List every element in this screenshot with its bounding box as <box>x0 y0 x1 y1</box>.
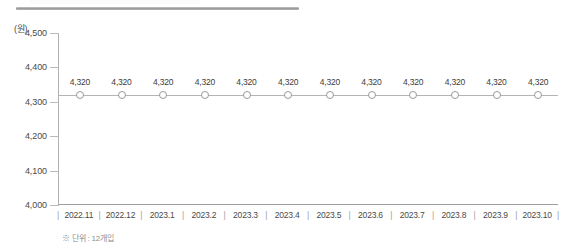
x-axis-label-separator: | <box>474 210 476 220</box>
data-point-marker[interactable] <box>368 91 376 99</box>
x-axis-label-separator: | <box>390 210 392 220</box>
x-axis-label-separator: | <box>307 210 309 220</box>
data-point-marker[interactable] <box>493 91 501 99</box>
y-axis-tick-label: 4,300 <box>25 97 47 107</box>
y-axis-tick-label: 4,200 <box>25 131 47 141</box>
line-chart: (원) 4,5004,4004,3004,2004,1004,000 4,320… <box>0 0 563 252</box>
data-point-label: 4,320 <box>445 77 465 87</box>
data-point-label: 4,320 <box>528 77 548 87</box>
x-axis-tick-label: 2022.11 <box>64 210 93 220</box>
data-point-label: 4,320 <box>195 77 215 87</box>
data-point-label: 4,320 <box>153 77 173 87</box>
x-axis-tick-label: 2023.10 <box>522 210 551 220</box>
top-cropped-artifact <box>30 0 200 4</box>
x-axis-label-separator: | <box>349 210 351 220</box>
top-divider-rule <box>16 7 299 10</box>
plot-area: 4,5004,4004,3004,2004,1004,000 4,3204,32… <box>58 33 558 205</box>
x-axis-label-separator: | <box>182 210 184 220</box>
x-axis-tick-label: 2023.3 <box>233 210 258 220</box>
data-point-marker[interactable] <box>284 91 292 99</box>
data-point-marker[interactable] <box>118 91 126 99</box>
x-axis-tick-label: 2023.7 <box>400 210 425 220</box>
x-axis-label-separator: | <box>140 210 142 220</box>
data-point-marker[interactable] <box>201 91 209 99</box>
data-point-marker[interactable] <box>409 91 417 99</box>
x-axis-label-separator: | <box>515 210 517 220</box>
x-axis-tick-label: 2023.5 <box>316 210 341 220</box>
data-point-label: 4,320 <box>278 77 298 87</box>
y-axis-tick-label: 4,000 <box>25 200 47 210</box>
y-axis-tick-mark <box>50 205 59 206</box>
y-axis-tick-mark <box>50 67 59 68</box>
y-axis-tick-label: 4,100 <box>25 166 47 176</box>
data-point-marker[interactable] <box>451 91 459 99</box>
x-axis-tick-label: 2023.9 <box>483 210 508 220</box>
data-point-marker[interactable] <box>243 91 251 99</box>
x-axis-tick-label: 2023.1 <box>150 210 175 220</box>
y-axis-tick-mark <box>50 136 59 137</box>
y-axis-tick-label: 4,400 <box>25 62 47 72</box>
x-axis-label-separator: | <box>99 210 101 220</box>
x-axis-tick-label: 2023.4 <box>275 210 300 220</box>
data-point-label: 4,320 <box>111 77 131 87</box>
y-axis-tick-label: 4,500 <box>25 28 47 38</box>
x-axis-tick-label: 2022.12 <box>106 210 135 220</box>
data-point-marker[interactable] <box>326 91 334 99</box>
chart-footnote: ※ 단위 : 12개입 <box>62 232 114 243</box>
x-axis-label-separator: | <box>265 210 267 220</box>
x-axis-tick-label: 2023.6 <box>358 210 383 220</box>
y-axis-tick-mark <box>50 171 59 172</box>
data-point-label: 4,320 <box>236 77 256 87</box>
data-point-marker[interactable] <box>534 91 542 99</box>
x-axis-tick-label: 2023.2 <box>191 210 216 220</box>
x-axis-label-separator: | <box>224 210 226 220</box>
x-axis-label-separator: | <box>57 210 59 220</box>
data-point-label: 4,320 <box>403 77 423 87</box>
y-axis-tick-mark <box>50 102 59 103</box>
x-axis-tick-label: 2023.8 <box>441 210 466 220</box>
data-point-label: 4,320 <box>70 77 90 87</box>
data-point-marker[interactable] <box>76 91 84 99</box>
data-point-marker[interactable] <box>159 91 167 99</box>
series-line <box>59 95 558 96</box>
x-axis-label-separator: | <box>557 210 559 220</box>
x-axis: 2022.11|2022.12|2023.1|2023.2|2023.3|202… <box>58 208 558 224</box>
data-point-label: 4,320 <box>486 77 506 87</box>
data-point-label: 4,320 <box>361 77 381 87</box>
data-point-label: 4,320 <box>320 77 340 87</box>
x-axis-label-separator: | <box>432 210 434 220</box>
y-axis-tick-mark <box>50 33 59 34</box>
